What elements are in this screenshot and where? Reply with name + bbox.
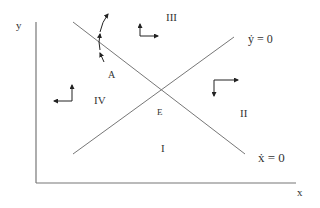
axes: [36, 22, 296, 183]
direction-arrows-region-II-icon: [214, 80, 238, 96]
xdot-zero-label: ẋ = 0: [258, 150, 285, 165]
ydot-zero-label: ẏ = 0: [248, 32, 273, 46]
direction-arrows-region-IV-icon: [54, 85, 72, 101]
region-label-III: III: [166, 11, 177, 23]
point-a-label: A: [108, 69, 116, 80]
equilibrium-label: E: [157, 107, 163, 117]
phase-diagram: y x ẏ = 0 ẋ = 0 E III IV II I A: [0, 0, 320, 208]
direction-arrows-region-III-icon: [140, 24, 158, 36]
trajectory-arrow-icon: [99, 14, 108, 62]
region-label-II: II: [240, 107, 248, 119]
x-axis-label: x: [297, 186, 303, 198]
region-label-I: I: [161, 142, 165, 154]
y-axis-label: y: [16, 19, 22, 31]
region-label-IV: IV: [94, 94, 106, 106]
